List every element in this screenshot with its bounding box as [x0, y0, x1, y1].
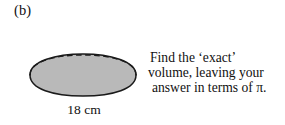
hemisphere-diagram — [18, 26, 148, 102]
instruction-line-2: volume, leaving your — [148, 65, 285, 80]
dimension-group: 18 cm — [22, 100, 146, 121]
instruction-line-3: answer in terms of π. — [152, 80, 285, 95]
instruction-text-block: Find the ‘exact’ volume, leaving your an… — [148, 50, 285, 96]
figure-page: (b) 18 cm Find the ‘exact’ volume, leavi… — [0, 0, 285, 125]
dimension-label-text: 18 cm — [62, 102, 105, 117]
part-label: (b) — [14, 2, 31, 18]
instruction-line-1: Find the ‘exact’ — [150, 50, 285, 65]
dimension-label: 18 cm — [22, 100, 146, 119]
